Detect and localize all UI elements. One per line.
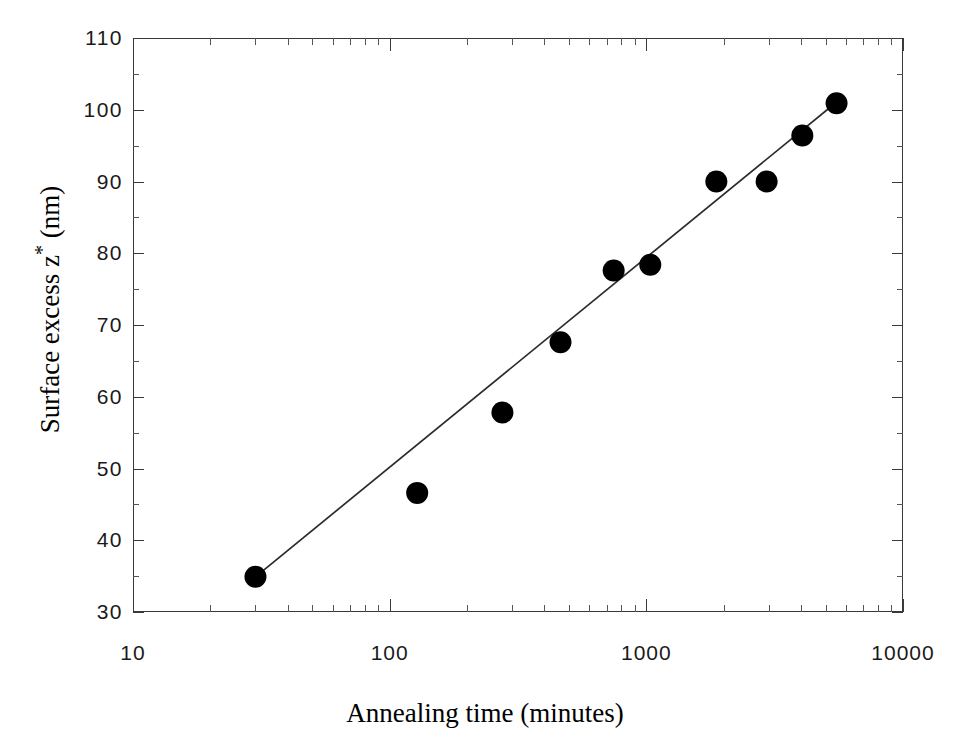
data-point <box>826 92 848 114</box>
x-minor-tick <box>333 605 334 612</box>
x-minor-tick-top <box>589 38 590 45</box>
x-minor-tick <box>607 605 608 612</box>
x-minor-tick-top <box>255 38 256 45</box>
x-minor-tick <box>255 605 256 612</box>
fit-line <box>255 99 840 577</box>
x-minor-tick <box>210 605 211 612</box>
plot-canvas <box>133 38 903 612</box>
x-minor-tick-top <box>333 38 334 45</box>
y-tick-label-40: 40 <box>97 528 123 552</box>
x-minor-tick <box>569 605 570 612</box>
x-minor-tick-top <box>607 38 608 45</box>
y-tick-right-90 <box>892 182 903 183</box>
y-tick-right-60 <box>892 397 903 398</box>
x-minor-tick-top <box>544 38 545 45</box>
x-minor-tick-top <box>801 38 802 45</box>
x-minor-tick-top <box>826 38 827 45</box>
y-tick-label-110: 110 <box>85 26 123 50</box>
x-minor-tick-top <box>378 38 379 45</box>
x-minor-tick <box>621 605 622 612</box>
y-tick-label-100: 100 <box>83 98 123 122</box>
x-minor-tick-top <box>365 38 366 45</box>
scientific-figure: 30405060708090100110 10100100010000 Surf… <box>0 0 970 752</box>
y-tick-60 <box>133 397 144 398</box>
y-minor-tick <box>133 74 139 75</box>
y-tick-right-30 <box>892 612 903 613</box>
x-minor-tick-top <box>621 38 622 45</box>
x-minor-tick <box>312 605 313 612</box>
x-minor-tick-top <box>467 38 468 45</box>
y-tick-right-80 <box>892 253 903 254</box>
y-minor-tick-right <box>897 433 903 434</box>
y-minor-tick <box>133 576 139 577</box>
y-tick-label-60: 60 <box>97 385 123 409</box>
x-minor-tick-top <box>569 38 570 45</box>
x-minor-tick-top <box>878 38 879 45</box>
fit-line-path <box>255 99 840 577</box>
y-tick-80 <box>133 253 144 254</box>
data-point <box>603 259 625 281</box>
x-minor-tick <box>769 605 770 612</box>
x-tick-10 <box>133 599 134 612</box>
x-tick-top-10000 <box>903 38 904 51</box>
x-minor-tick <box>635 605 636 612</box>
x-minor-tick-top <box>210 38 211 45</box>
x-minor-tick <box>288 605 289 612</box>
y-tick-label-90: 90 <box>97 170 123 194</box>
x-minor-tick-top <box>350 38 351 45</box>
y-tick-right-110 <box>892 38 903 39</box>
x-axis-title: Annealing time (minutes) <box>0 698 970 729</box>
x-minor-tick-top <box>891 38 892 45</box>
x-minor-tick <box>589 605 590 612</box>
top-clipped-text-fragment <box>0 0 970 5</box>
x-minor-tick <box>365 605 366 612</box>
x-minor-tick <box>891 605 892 612</box>
x-tick-100 <box>390 599 391 612</box>
y-minor-tick-right <box>897 289 903 290</box>
x-minor-tick <box>350 605 351 612</box>
x-minor-tick <box>544 605 545 612</box>
y-minor-tick <box>133 217 139 218</box>
x-minor-tick <box>801 605 802 612</box>
x-minor-tick-top <box>635 38 636 45</box>
y-minor-tick-right <box>897 576 903 577</box>
x-minor-tick <box>512 605 513 612</box>
data-point <box>491 402 513 424</box>
x-minor-tick <box>378 605 379 612</box>
y-tick-110 <box>133 38 144 39</box>
y-minor-tick-right <box>897 74 903 75</box>
y-tick-right-50 <box>892 469 903 470</box>
x-minor-tick <box>846 605 847 612</box>
y-minor-tick-right <box>897 217 903 218</box>
data-point <box>244 566 266 588</box>
y-minor-tick-right <box>897 504 903 505</box>
x-minor-tick-top <box>769 38 770 45</box>
y-tick-right-40 <box>892 540 903 541</box>
y-tick-40 <box>133 540 144 541</box>
x-tick-top-10 <box>133 38 134 51</box>
data-point <box>549 331 571 353</box>
y-tick-label-70: 70 <box>97 313 123 337</box>
y-axis-title: Surface excess z* (nm) <box>31 50 66 570</box>
y-minor-tick <box>133 146 139 147</box>
y-minor-tick <box>133 433 139 434</box>
x-tick-1000 <box>646 599 647 612</box>
y-tick-label-80: 80 <box>97 241 123 265</box>
x-minor-tick-top <box>846 38 847 45</box>
y-tick-right-70 <box>892 325 903 326</box>
x-minor-tick-top <box>288 38 289 45</box>
y-minor-tick <box>133 361 139 362</box>
y-tick-50 <box>133 469 144 470</box>
x-tick-top-1000 <box>646 38 647 51</box>
y-minor-tick <box>133 504 139 505</box>
y-minor-tick-right <box>897 146 903 147</box>
data-point <box>639 254 661 276</box>
y-tick-70 <box>133 325 144 326</box>
x-tick-label-1000: 1000 <box>621 641 672 665</box>
y-tick-label-30: 30 <box>97 600 123 624</box>
x-minor-tick <box>863 605 864 612</box>
data-point <box>705 171 727 193</box>
x-minor-tick <box>724 605 725 612</box>
data-point <box>406 482 428 504</box>
y-tick-100 <box>133 110 144 111</box>
